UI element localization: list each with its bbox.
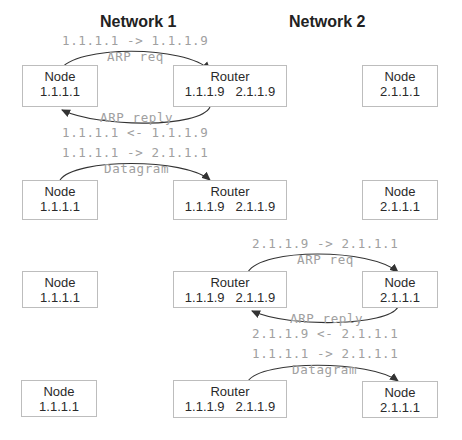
router-ip-2: 2.1.1.9 [235, 84, 275, 99]
node-label: Node [23, 69, 97, 84]
node-ip: 1.1.1.1 [22, 399, 96, 414]
row3-request-address: 2.1.1.9 -> 2.1.1.1 [252, 236, 398, 251]
node-ip: 1.1.1.1 [23, 84, 97, 99]
row3-node-2: Node 2.1.1.1 [362, 271, 438, 308]
node-ip: 2.1.1.1 [363, 400, 437, 415]
router-ip-2: 2.1.1.9 [235, 290, 275, 305]
node-ip: 1.1.1.1 [23, 199, 97, 214]
router-ip-2: 2.1.1.9 [235, 199, 275, 214]
row2-node-2: Node 2.1.1.1 [362, 180, 438, 220]
row1-router: Router 1.1.1.9 2.1.1.9 [173, 65, 287, 107]
row2-router: Router 1.1.1.9 2.1.1.9 [173, 180, 287, 220]
row2-node-1: Node 1.1.1.1 [22, 180, 98, 220]
node-label: Node [23, 184, 97, 199]
router-ip-2: 2.1.1.9 [235, 399, 275, 414]
row1-request-label: ARP req [107, 49, 164, 64]
router-label: Router [174, 275, 286, 290]
node-label: Node [22, 384, 96, 399]
row1-node-2: Node 2.1.1.1 [362, 65, 438, 107]
router-ips: 1.1.1.9 2.1.1.9 [174, 199, 286, 214]
row4-node-1: Node 1.1.1.1 [21, 380, 97, 417]
row1-request-address: 1.1.1.1 -> 1.1.1.9 [62, 33, 208, 48]
row4-datagram-address: 1.1.1.1 -> 2.1.1.1 [252, 346, 398, 361]
row1-node-1: Node 1.1.1.1 [22, 65, 98, 107]
row3-request-label: ARP req [297, 252, 354, 267]
row2-datagram-address: 1.1.1.1 -> 2.1.1.1 [62, 145, 208, 160]
row4-node-2: Node 2.1.1.1 [362, 381, 438, 418]
node-label: Node [363, 69, 437, 84]
row3-router: Router 1.1.1.9 2.1.1.9 [173, 271, 287, 308]
router-label: Router [174, 384, 286, 399]
router-ips: 1.1.1.9 2.1.1.9 [174, 290, 286, 305]
router-ips: 1.1.1.9 2.1.1.9 [174, 84, 286, 99]
router-label: Router [174, 184, 286, 199]
router-ips: 1.1.1.9 2.1.1.9 [174, 399, 286, 414]
router-ip-1: 1.1.1.9 [185, 84, 225, 99]
node-label: Node [363, 184, 437, 199]
node-label: Node [363, 385, 437, 400]
row3-node-1: Node 1.1.1.1 [22, 271, 98, 308]
row1-reply-address: 1.1.1.1 <- 1.1.1.9 [62, 125, 208, 140]
router-ip-1: 1.1.1.9 [185, 399, 225, 414]
router-label: Router [174, 69, 286, 84]
node-ip: 1.1.1.1 [23, 290, 97, 305]
row4-datagram-label: Datagram [292, 362, 357, 377]
node-label: Node [23, 275, 97, 290]
node-ip: 2.1.1.1 [363, 84, 437, 99]
router-ip-1: 1.1.1.9 [185, 290, 225, 305]
node-label: Node [363, 275, 437, 290]
row3-reply-address: 2.1.1.9 <- 2.1.1.1 [252, 326, 398, 341]
node-ip: 2.1.1.1 [363, 199, 437, 214]
row3-reply-label: ARP reply [290, 311, 363, 326]
node-ip: 2.1.1.1 [363, 290, 437, 305]
row1-reply-label: ARP reply [100, 110, 173, 125]
row4-router: Router 1.1.1.9 2.1.1.9 [173, 380, 287, 418]
router-ip-1: 1.1.1.9 [185, 199, 225, 214]
row2-datagram-label: Datagram [104, 161, 169, 176]
